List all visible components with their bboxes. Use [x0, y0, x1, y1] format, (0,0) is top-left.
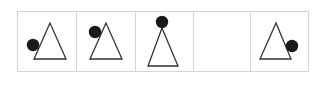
sequence-strip	[0, 0, 327, 86]
empty-cell	[194, 12, 251, 72]
sequence-cell	[18, 12, 77, 72]
sequence-cell	[77, 12, 136, 72]
cell-border	[194, 12, 251, 72]
dot-icon	[156, 16, 168, 28]
dot-icon	[89, 26, 101, 38]
cell-border	[251, 12, 309, 72]
sequence-cell	[251, 12, 309, 72]
cell-border	[18, 12, 77, 72]
dot-icon	[27, 39, 39, 51]
sequence-cell	[136, 12, 194, 72]
dot-icon	[286, 40, 298, 52]
cell-border	[77, 12, 136, 72]
